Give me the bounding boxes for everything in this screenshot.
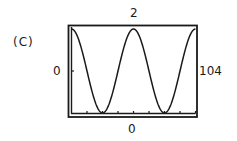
chart-plot bbox=[0, 0, 237, 141]
data-curve bbox=[72, 29, 196, 113]
axis-ticks bbox=[72, 71, 196, 114]
